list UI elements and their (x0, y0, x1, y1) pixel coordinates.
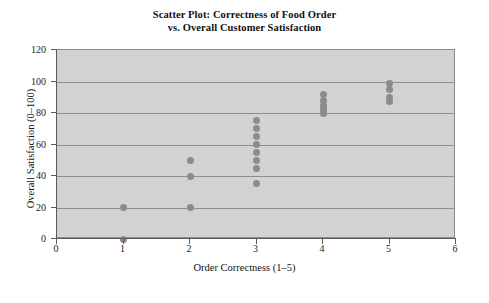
x-tick-label-4: 4 (312, 243, 332, 254)
data-point (187, 204, 194, 211)
chart-page: Scatter Plot: Correctness of Food Order … (0, 0, 489, 303)
y-tick-label-20: 20 (0, 201, 46, 212)
x-tick-label-1: 1 (113, 243, 133, 254)
x-axis-title: Order Correctness (1–5) (0, 262, 489, 273)
data-point (386, 86, 393, 93)
x-tick-label-6: 6 (445, 243, 465, 254)
data-point (253, 180, 260, 187)
data-point (253, 141, 260, 148)
x-tick-label-3: 3 (246, 243, 266, 254)
data-point (120, 236, 127, 243)
data-point (120, 204, 127, 211)
y-tick-mark-60 (51, 144, 56, 145)
data-point (253, 165, 260, 172)
y-tick-mark-120 (51, 49, 56, 50)
gridline-y-40 (57, 176, 454, 177)
y-tick-label-0: 0 (0, 233, 46, 244)
y-axis-title: Overall Satisfaction (0–100) (25, 49, 36, 249)
y-tick-mark-20 (51, 207, 56, 208)
gridline-y-100 (57, 82, 454, 83)
data-point (253, 149, 260, 156)
data-point (253, 117, 260, 124)
y-tick-label-100: 100 (0, 75, 46, 86)
x-tick-label-5: 5 (379, 243, 399, 254)
y-axis-line (56, 49, 57, 239)
gridline-y-20 (57, 208, 454, 209)
plot-area (56, 49, 455, 238)
data-point (386, 98, 393, 105)
y-tick-label-60: 60 (0, 138, 46, 149)
data-point (253, 125, 260, 132)
x-tick-label-0: 0 (46, 243, 66, 254)
data-point (187, 157, 194, 164)
data-point (187, 173, 194, 180)
y-tick-label-40: 40 (0, 170, 46, 181)
y-tick-mark-80 (51, 112, 56, 113)
gridline-y-80 (57, 113, 454, 114)
y-tick-mark-40 (51, 175, 56, 176)
data-point (320, 110, 327, 117)
y-tick-mark-100 (51, 81, 56, 82)
x-tick-label-2: 2 (179, 243, 199, 254)
chart-title-line-2: vs. Overall Customer Satisfaction (0, 21, 489, 34)
data-point (253, 133, 260, 140)
data-point (253, 157, 260, 164)
y-tick-label-80: 80 (0, 107, 46, 118)
page-title: Scatter Plot: Correctness of Food Order … (0, 8, 489, 34)
y-tick-label-120: 120 (0, 44, 46, 55)
chart-title-line-1: Scatter Plot: Correctness of Food Order (0, 8, 489, 21)
